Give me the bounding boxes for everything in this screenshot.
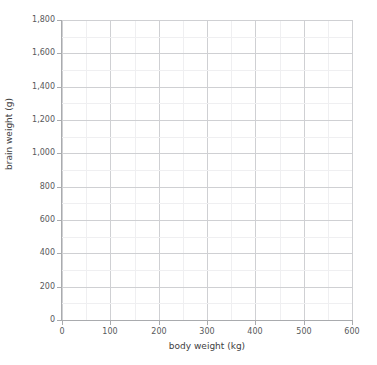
y-axis-tick-label: 600 <box>13 215 55 224</box>
x-axis-tick <box>255 321 256 325</box>
y-axis-title: brain weight (g) <box>4 98 14 170</box>
gridline-horizontal-minor <box>62 137 352 138</box>
y-axis-tick <box>57 220 61 221</box>
x-axis-tick-label: 300 <box>187 327 227 336</box>
x-axis-tick-label: 200 <box>139 327 179 336</box>
plot-area <box>62 20 352 320</box>
y-axis-tick <box>57 187 61 188</box>
x-axis-tick <box>207 321 208 325</box>
gridline-horizontal-minor <box>62 103 352 104</box>
gridline-horizontal-minor <box>62 237 352 238</box>
y-axis-tick-label: 1,600 <box>13 48 55 57</box>
x-axis-tick-label: 0 <box>42 327 82 336</box>
x-axis-tick <box>159 321 160 325</box>
x-axis-tick <box>352 321 353 325</box>
gridline-horizontal-minor <box>62 203 352 204</box>
gridline-horizontal-minor <box>62 170 352 171</box>
gridline-horizontal-minor <box>62 37 352 38</box>
x-axis-tick-label: 400 <box>235 327 275 336</box>
x-axis-tick <box>304 321 305 325</box>
x-axis-title: body weight (kg) <box>62 341 352 351</box>
y-axis-tick-label: 200 <box>13 282 55 291</box>
gridline-horizontal-major <box>62 120 352 121</box>
y-axis-tick-label: 1,000 <box>13 148 55 157</box>
gridline-horizontal-major <box>62 87 352 88</box>
y-axis-tick <box>57 53 61 54</box>
gridline-horizontal-major <box>62 53 352 54</box>
x-axis-tick <box>110 321 111 325</box>
y-axis-tick <box>57 120 61 121</box>
y-axis-tick <box>57 87 61 88</box>
gridline-horizontal-major <box>62 153 352 154</box>
y-axis-line <box>61 20 62 321</box>
y-axis-tick <box>57 20 61 21</box>
y-axis-tick-label: 1,200 <box>13 115 55 124</box>
y-axis-tick <box>57 287 61 288</box>
y-axis-tick-label: 800 <box>13 182 55 191</box>
gridline-horizontal-major <box>62 20 352 21</box>
gridline-horizontal-major <box>62 187 352 188</box>
y-axis-tick <box>57 253 61 254</box>
x-axis-tick <box>62 321 63 325</box>
gridline-horizontal-minor <box>62 70 352 71</box>
x-axis-tick-label: 100 <box>90 327 130 336</box>
gridline-vertical-major <box>352 20 353 320</box>
gridline-horizontal-minor <box>62 303 352 304</box>
y-axis-tick-label: 400 <box>13 248 55 257</box>
x-axis-tick-label: 600 <box>332 327 372 336</box>
y-axis-tick-label: 1,400 <box>13 82 55 91</box>
y-axis-tick <box>57 153 61 154</box>
y-axis-tick-label: 1,800 <box>13 15 55 24</box>
scatter-plot-chart: body weight (kg) brain weight (g) 010020… <box>0 0 377 365</box>
gridline-horizontal-minor <box>62 270 352 271</box>
gridline-horizontal-major <box>62 253 352 254</box>
gridline-horizontal-major <box>62 287 352 288</box>
y-axis-tick <box>57 320 61 321</box>
x-axis-tick-label: 500 <box>284 327 324 336</box>
y-axis-tick-label: 0 <box>13 315 55 324</box>
gridline-horizontal-major <box>62 220 352 221</box>
